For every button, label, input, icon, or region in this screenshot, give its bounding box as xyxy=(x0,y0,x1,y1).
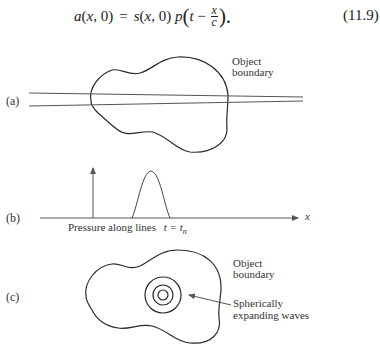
x-axis-label: x xyxy=(305,211,310,222)
wave-ring-outer xyxy=(145,277,181,313)
pressure-caption-math: t = t xyxy=(164,221,183,233)
wave-ring-middle xyxy=(153,285,173,305)
waves-label-line1: Spherically xyxy=(233,298,283,309)
pressure-pulse xyxy=(132,171,170,218)
panel-label-b: (b) xyxy=(6,211,20,226)
object-boundary-label-a-line2: boundary xyxy=(232,67,274,78)
wave-ring-inner xyxy=(158,290,168,300)
ray-line-upper xyxy=(29,93,303,97)
waves-label-line2: expanding waves xyxy=(233,310,309,321)
pressure-caption-subscript: n xyxy=(183,227,187,236)
pressure-caption: Pressure along lines t = tn xyxy=(68,222,187,237)
panel-label-c: (c) xyxy=(6,290,19,305)
pressure-caption-text: Pressure along lines xyxy=(68,221,156,233)
waves-pointer-arrow xyxy=(189,295,231,305)
object-boundary-label-c-line2: boundary xyxy=(233,269,275,280)
panel-label-a: (a) xyxy=(6,94,19,109)
figure-diagram xyxy=(0,0,380,351)
ray-line-lower xyxy=(29,101,303,106)
